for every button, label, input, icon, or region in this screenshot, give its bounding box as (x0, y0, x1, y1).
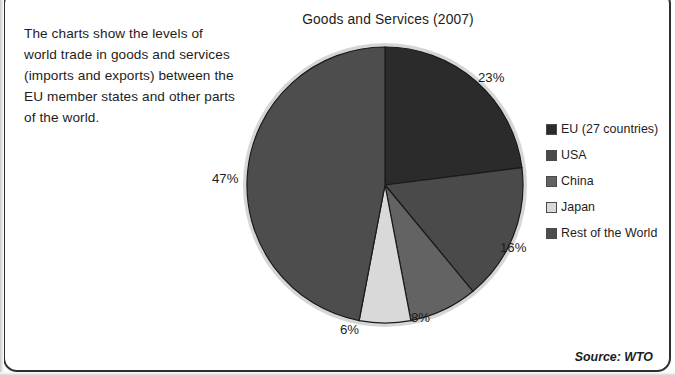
legend-item[interactable]: USA (546, 142, 671, 168)
chart-title: Goods and Services (2007) (243, 12, 533, 27)
legend-item[interactable]: China (546, 168, 671, 194)
page-root: The charts show the levels of world trad… (0, 0, 675, 376)
legend-item-label: Japan (561, 200, 595, 214)
source-note: Source: WTO (575, 350, 653, 364)
legend-swatch-icon (546, 150, 557, 161)
legend-item-label: China (561, 174, 594, 188)
legend-item-label: USA (561, 148, 587, 162)
legend-swatch-icon (546, 176, 557, 187)
intro-paragraph: The charts show the levels of world trad… (24, 23, 236, 128)
pie-slice[interactable] (385, 47, 522, 185)
pie-chart (243, 43, 527, 327)
legend-swatch-icon (546, 124, 557, 135)
pie-slice[interactable] (247, 47, 385, 321)
legend-item[interactable]: Rest of the World (546, 220, 671, 246)
pie-label-rest-of-world: 47% (212, 171, 238, 186)
pie-label-japan: 6% (340, 322, 359, 337)
legend-swatch-icon (546, 202, 557, 213)
page-edge-bottom (0, 372, 675, 376)
pie-label-usa: 16% (500, 240, 526, 255)
legend-item-label: Rest of the World (561, 226, 657, 240)
pie-label-eu: 23% (478, 70, 504, 85)
page-edge-left (0, 0, 4, 376)
legend-item-label: EU (27 countries) (561, 122, 658, 136)
pie-label-china: 8% (411, 310, 430, 325)
pie-slices (243, 43, 527, 327)
legend-item[interactable]: Japan (546, 194, 671, 220)
chart-legend: EU (27 countries)USAChinaJapanRest of th… (546, 116, 671, 246)
legend-item[interactable]: EU (27 countries) (546, 116, 671, 142)
legend-swatch-icon (546, 228, 557, 239)
content-panel: The charts show the levels of world trad… (0, 0, 675, 376)
